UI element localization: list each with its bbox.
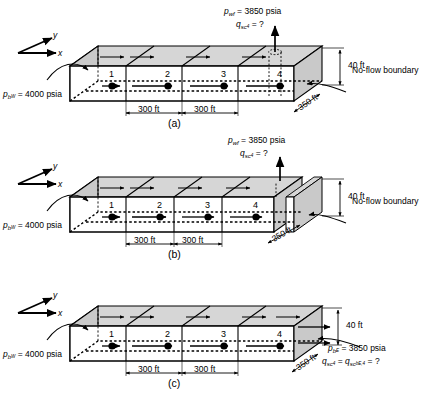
panel-caption-b: (b): [168, 248, 181, 260]
cell-center-3: [220, 342, 227, 349]
panel-c: y x pbW = 4000 psia pbE = 3850 psia qsc4…: [0, 263, 421, 394]
cell-center-1: [108, 82, 115, 89]
cell-label-3: 3: [221, 329, 226, 339]
east-boundary-pressure-label: pbE = 3850 psia: [328, 344, 386, 354]
well-flowing-pressure-label: pwf = 3850 psia: [228, 136, 285, 146]
panel-a: y x pbW = 4000 psia pwf = 3850 psia qsc4…: [0, 0, 421, 131]
cell-center-4: [276, 342, 283, 349]
cell-label-4: 4: [253, 200, 258, 210]
box-front-face: [70, 197, 274, 232]
west-boundary-pressure-label: pbW = 4000 psia: [3, 350, 62, 360]
cell-label-1: 1: [109, 200, 114, 210]
axis-label-y: y: [53, 162, 57, 171]
panel-caption-c: (c): [168, 377, 180, 389]
cell-center-3: [220, 82, 227, 89]
cell-label-3: 3: [205, 200, 210, 210]
axis-label-x: x: [58, 180, 62, 189]
spacing-dim-label-1: 300 ft: [134, 235, 155, 245]
cell-center-2: [164, 342, 171, 349]
cell-center-1: [108, 342, 115, 349]
y-axis-arrow: [18, 38, 52, 53]
cell-center-2: [156, 213, 163, 220]
cell-label-1: 1: [109, 69, 114, 79]
spacing-dim-label-1: 300 ft: [138, 364, 159, 374]
spacing-dim-label-2: 300 ft: [182, 235, 203, 245]
east-boundary-rate-label: qsc4 = qscbE,4 = ?: [322, 357, 380, 367]
well-rate-label: qsc4 = ?: [236, 20, 264, 30]
cell-label-2: 2: [157, 200, 162, 210]
west-boundary-pressure-label: pbW = 4000 psia: [3, 221, 62, 231]
cell-label-3: 3: [221, 69, 226, 79]
cell-center-4: [252, 213, 259, 220]
cell-label-2: 2: [165, 69, 170, 79]
height-dim-label: 40 ft: [348, 60, 365, 70]
axis-label-y: y: [53, 291, 57, 300]
height-dim-label: 40 ft: [348, 191, 365, 201]
box-top-face: [70, 177, 302, 197]
panel-caption-a: (a): [168, 117, 181, 129]
y-axis-arrow: [18, 298, 52, 313]
spacing-dim-label-2: 300 ft: [194, 104, 215, 114]
y-axis-arrow: [18, 169, 52, 184]
spacing-dim-label-1: 300 ft: [138, 104, 159, 114]
west-boundary-pressure-label: pbW = 4000 psia: [3, 90, 62, 100]
axis-label-x: x: [58, 309, 62, 318]
well-rate-label: qsc4 = ?: [240, 149, 268, 159]
cell-center-1: [108, 213, 115, 220]
well-flowing-pressure-label: pwf = 3850 psia: [224, 7, 281, 17]
axis-label-y: y: [53, 31, 57, 40]
cell-label-4: 4: [277, 69, 282, 79]
cell-center-3: [204, 213, 211, 220]
cell-label-4: 4: [277, 329, 282, 339]
height-dim-label: 40 ft: [346, 320, 363, 330]
cell-center-2: [164, 82, 171, 89]
spacing-dim-label-2: 300 ft: [194, 364, 215, 374]
cell-label-1: 1: [109, 329, 114, 339]
panel-b: y x pbW = 4000 psia pwf = 3850 psia qsc4…: [0, 131, 421, 262]
cell-center-4: [276, 82, 283, 89]
cell-label-2: 2: [165, 329, 170, 339]
axis-label-x: x: [58, 49, 62, 58]
